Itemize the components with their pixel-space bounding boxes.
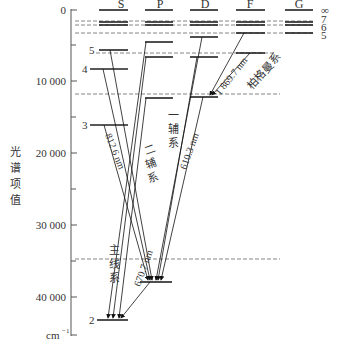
tick-label: 10 000 (36, 75, 67, 87)
unit-label: cm (46, 329, 60, 341)
s-label-4: 4 (82, 63, 88, 75)
axis-title-char: 谱 (10, 161, 21, 175)
axis-title-char: 光 (10, 145, 21, 159)
s-label-2: 2 (89, 314, 95, 326)
wavelength-812: 812.6 nm (103, 132, 127, 171)
y-axis (71, 9, 77, 336)
sharp-series-char: 二 (143, 142, 158, 158)
energy-level-diagram: 0 10 000 20 000 30 000 40 000 cm −1 光 谱 … (0, 0, 347, 341)
diffuse-series-char: 一 (168, 109, 179, 122)
diffuse-series-char: 辅 (168, 122, 179, 136)
axis-tick-labels: 0 10 000 20 000 30 000 40 000 cm −1 (36, 4, 70, 341)
wavelength-610: 610.3 nm (178, 131, 201, 170)
series-labels: 主 线 系 二 辅 系 一 辅 系 柏格曼系 (109, 50, 284, 285)
axis-title: 光 谱 项 值 (10, 145, 21, 207)
tick-label: 30 000 (36, 219, 67, 231)
unit-sup: −1 (62, 327, 70, 335)
principal-series-char: 线 (109, 257, 120, 271)
sharp-series-char: 辅 (143, 155, 158, 172)
n-label-5: 5 (321, 29, 327, 41)
tick-label: 40 000 (36, 291, 67, 303)
axis-title-char: 值 (10, 194, 21, 207)
principal-series-char: 系 (109, 272, 120, 285)
tick-label: 0 (61, 4, 67, 16)
axis-title-char: 项 (10, 178, 21, 191)
principal-number-labels: ∞ 7 6 5 (321, 4, 329, 41)
tick-label: 20 000 (36, 147, 67, 159)
wavelength-1869: 1 869.7 nm (213, 55, 250, 98)
principal-series-char: 主 (109, 244, 120, 257)
s-level-labels: 5 4 3 2 (82, 44, 95, 326)
sharp-series-char: 系 (146, 170, 161, 186)
s-label-5: 5 (89, 44, 95, 56)
diffuse-series-char: 系 (168, 137, 179, 150)
s-label-3: 3 (82, 119, 88, 131)
fundamental-series-label: 柏格曼系 (244, 50, 284, 92)
